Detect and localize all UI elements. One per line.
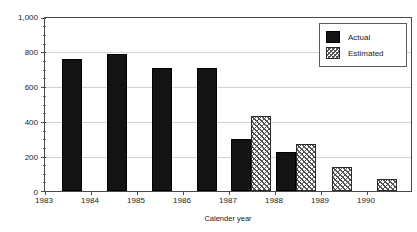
y-minor-tick-650 <box>43 78 46 79</box>
bar-actual-1984 <box>107 54 127 191</box>
x-axis-title: Calender year <box>44 214 412 223</box>
x-tick-label-1984: 1984 <box>67 196 113 205</box>
y-major-tick-600 <box>41 87 46 88</box>
legend-row-estimated: Estimated <box>326 45 400 61</box>
gridline-600 <box>45 87 411 88</box>
bar-estimated-1990 <box>377 179 397 191</box>
y-major-tick-1000 <box>41 18 46 19</box>
y-minor-tick-950 <box>43 26 46 27</box>
y-major-tick-400 <box>41 122 46 123</box>
y-minor-tick-250 <box>43 148 46 149</box>
bar-actual-1987 <box>231 139 251 191</box>
bar-actual-1988 <box>276 152 296 191</box>
x-tick-1 <box>91 191 92 195</box>
legend-row-actual: Actual <box>326 29 400 45</box>
y-tick-label-1000: 1,000 <box>0 13 38 22</box>
plot-area: Actual Estimated <box>44 17 412 192</box>
x-tick-6 <box>321 191 322 195</box>
y-tick-label-400: 400 <box>0 118 38 127</box>
y-tick-label-200: 200 <box>0 153 38 162</box>
bar-actual-1986 <box>197 68 217 191</box>
y-minor-tick-700 <box>43 70 46 71</box>
gridline-400 <box>45 122 411 123</box>
x-tick-3 <box>183 191 184 195</box>
x-tick-label-1986: 1986 <box>159 196 205 205</box>
legend-label-actual: Actual <box>348 33 370 42</box>
mercury-usage-bar-chart: Mercury usage, tons 0 200 400 600 800 1,… <box>0 0 417 232</box>
y-minor-tick-450 <box>43 113 46 114</box>
bar-estimated-1987 <box>251 116 271 191</box>
bar-actual-1985 <box>152 68 172 191</box>
legend-swatch-actual-icon <box>326 31 340 43</box>
y-major-tick-200 <box>41 157 46 158</box>
legend: Actual Estimated <box>319 23 407 67</box>
x-tick-2 <box>137 191 138 195</box>
x-tick-left-edge <box>45 191 46 195</box>
y-major-tick-800 <box>41 52 46 53</box>
y-minor-tick-850 <box>43 44 46 45</box>
y-minor-tick-350 <box>43 131 46 132</box>
y-tick-label-600: 600 <box>0 83 38 92</box>
y-minor-tick-100 <box>43 174 46 175</box>
gridline-200 <box>45 157 411 158</box>
x-tick-5 <box>275 191 276 195</box>
x-tick-7 <box>367 191 368 195</box>
x-tick-label-1985: 1985 <box>113 196 159 205</box>
x-tick-label-1990: 1990 <box>343 196 389 205</box>
x-tick-label-1987: 1987 <box>205 196 251 205</box>
legend-label-estimated: Estimated <box>348 49 384 58</box>
y-minor-tick-900 <box>43 35 46 36</box>
x-tick-label-1983: 1983 <box>21 196 67 205</box>
y-minor-tick-550 <box>43 96 46 97</box>
x-tick-4 <box>229 191 230 195</box>
y-minor-tick-50 <box>43 182 46 183</box>
y-minor-tick-500 <box>43 105 46 106</box>
y-minor-tick-300 <box>43 139 46 140</box>
bar-estimated-1988 <box>296 144 316 191</box>
bar-estimated-1989 <box>332 167 352 191</box>
y-minor-tick-750 <box>43 61 46 62</box>
legend-swatch-estimated-icon <box>326 47 340 59</box>
y-tick-label-800: 800 <box>0 48 38 57</box>
bar-actual-1983 <box>62 59 82 191</box>
y-minor-tick-150 <box>43 165 46 166</box>
x-tick-label-1988: 1988 <box>251 196 297 205</box>
x-tick-label-1989: 1989 <box>297 196 343 205</box>
